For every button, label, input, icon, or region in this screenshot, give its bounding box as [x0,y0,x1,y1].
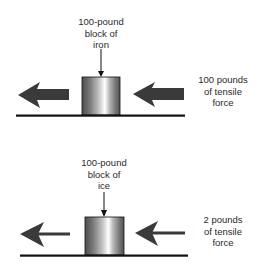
iron-block [82,77,120,115]
block-label-line: 100-pound [66,16,136,28]
right-thin-arrow-icon [135,221,185,246]
force-label-line: of tensile [187,86,259,98]
tensile-force-diagram: 100-pound block of iron 100 pounds of te… [0,0,259,264]
block-label-line: block of [69,169,139,181]
block-label-line: block of [66,28,136,40]
block-label-line: ice [69,180,139,192]
ice-force-label: 2 pounds of tensile force [187,214,259,249]
left-thick-arrow-icon [18,82,69,108]
ground-line [20,255,188,257]
panel-ice [20,192,188,257]
force-label-line: force [187,97,259,109]
ice-block-label: 100-pound block of ice [69,157,139,192]
block-label-line: iron [66,39,136,51]
force-label-line: of tensile [187,226,259,238]
force-label-line: 100 pounds [187,74,259,86]
block-pointer-arrow-icon [101,192,107,217]
ice-block [85,217,124,255]
block-label-line: 100-pound [69,157,139,169]
right-thick-arrow-icon [133,82,184,107]
block-pointer-arrow-icon [98,49,104,77]
ground-line [16,115,185,117]
left-thin-arrow-icon [20,222,70,247]
force-label-line: force [187,237,259,249]
iron-block-label: 100-pound block of iron [66,16,136,51]
panel-iron [16,49,185,117]
force-label-line: 2 pounds [187,214,259,226]
iron-force-label: 100 pounds of tensile force [187,74,259,109]
